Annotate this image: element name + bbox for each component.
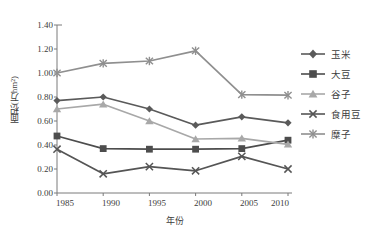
series-line — [53, 47, 291, 100]
legend-label: 食用豆 — [326, 107, 361, 121]
series-line — [54, 133, 292, 153]
legend-item[interactable]: 玉米 — [300, 44, 382, 64]
legend-item[interactable]: 谷子 — [300, 84, 382, 104]
axes — [54, 25, 292, 196]
series-line — [53, 146, 291, 178]
chart-container: 面积(万hm²) 1.40 1.20 1.00 0.80 0.60 0.40 0… — [0, 0, 385, 240]
legend-marker-asterisk-icon — [300, 127, 326, 141]
legend-label: 玉米 — [326, 47, 351, 61]
series-line — [53, 100, 292, 147]
legend-marker-triangle-icon — [300, 87, 326, 101]
legend-marker-x-icon — [300, 107, 326, 121]
legend-item[interactable]: 糜子 — [300, 124, 382, 144]
series-line — [53, 93, 291, 128]
data-series-group — [53, 47, 292, 178]
legend-marker-square-icon — [300, 67, 326, 81]
legend-item[interactable]: 食用豆 — [300, 104, 382, 124]
legend-label: 大豆 — [326, 67, 351, 81]
legend: 玉米 大豆 谷子 食用豆 糜子 — [300, 44, 382, 144]
legend-item[interactable]: 大豆 — [300, 64, 382, 84]
legend-marker-diamond-icon — [300, 47, 326, 61]
legend-label: 谷子 — [326, 87, 351, 101]
legend-label: 糜子 — [326, 127, 351, 141]
